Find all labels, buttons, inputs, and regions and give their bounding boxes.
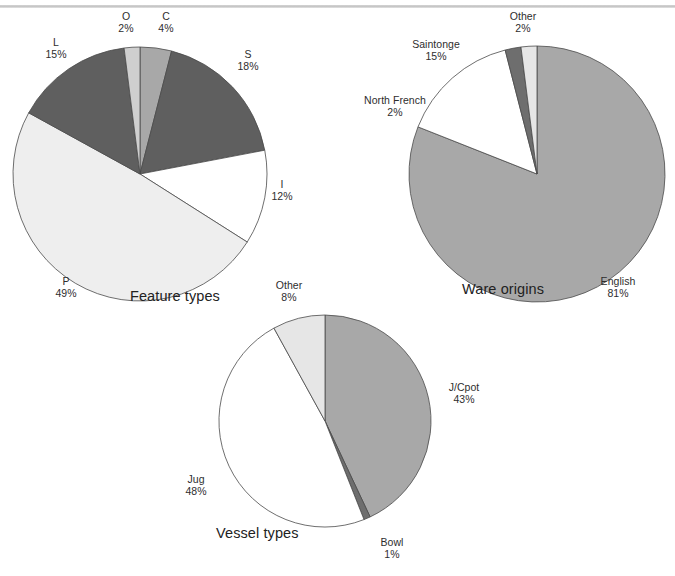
- slice-label-feature-S: S 18%: [232, 48, 264, 72]
- vessel-types-pie-svg: [200, 300, 480, 560]
- slice-label-feature-S-pct: 18%: [232, 60, 264, 72]
- slice-label-ware-north-french: North French 2%: [352, 94, 438, 118]
- slice-label-feature-O: O 2%: [112, 10, 140, 34]
- slice-label-ware-saintonge-name: Saintonge: [412, 38, 460, 50]
- slice-label-feature-I-pct: 12%: [266, 190, 298, 202]
- slice-label-vessel-jug-pct: 48%: [176, 485, 216, 497]
- slice-label-feature-I: I 12%: [266, 178, 298, 202]
- caption-ware-origins: Ware origins: [462, 281, 544, 297]
- slice-label-ware-english-pct: 81%: [589, 287, 647, 299]
- figure-page: Feature types O 2% C 4% L 15% S 18% I 12…: [0, 0, 675, 576]
- slice-label-vessel-jug-name: Jug: [187, 473, 204, 485]
- slice-label-feature-I-name: I: [281, 178, 284, 190]
- slice-label-feature-C: C 4%: [152, 10, 180, 34]
- caption-vessel-types: Vessel types: [216, 525, 299, 541]
- slice-label-vessel-jcpot: J/Cpot 43%: [440, 381, 488, 405]
- slice-label-ware-english-name: English: [601, 275, 636, 287]
- slice-label-feature-O-name: O: [122, 10, 130, 22]
- slice-label-ware-saintonge-pct: 15%: [400, 50, 472, 62]
- slice-label-feature-S-name: S: [244, 48, 251, 60]
- slice-label-vessel-other: Other 8%: [262, 279, 316, 303]
- slice-label-vessel-jug: Jug 48%: [176, 473, 216, 497]
- slice-label-feature-L: L 15%: [40, 36, 72, 60]
- slice-label-ware-other-pct: 2%: [496, 22, 550, 34]
- slice-label-feature-P-name: P: [62, 275, 69, 287]
- slice-label-vessel-jcpot-name: J/Cpot: [449, 381, 480, 393]
- slice-label-vessel-other-pct: 8%: [262, 291, 316, 303]
- slice-label-vessel-bowl-name: Bowl: [381, 536, 404, 548]
- slice-label-feature-P-pct: 49%: [50, 287, 82, 299]
- slice-label-vessel-bowl-pct: 1%: [370, 548, 414, 560]
- slice-label-feature-L-pct: 15%: [40, 48, 72, 60]
- slice-label-ware-english: English 81%: [589, 275, 647, 299]
- slice-label-vessel-other-name: Other: [276, 279, 303, 291]
- pie-chart-vessel-types: [200, 300, 480, 560]
- slice-label-ware-saintonge: Saintonge 15%: [400, 38, 472, 62]
- slice-label-feature-C-pct: 4%: [152, 22, 180, 34]
- slice-label-ware-other-name: Other: [510, 10, 537, 22]
- slice-label-ware-north-french-pct: 2%: [352, 106, 438, 118]
- slice-label-ware-other: Other 2%: [496, 10, 550, 34]
- slice-label-ware-north-french-name: North French: [364, 94, 426, 106]
- slice-label-vessel-jcpot-pct: 43%: [440, 393, 488, 405]
- slice-label-feature-P: P 49%: [50, 275, 82, 299]
- slice-label-feature-L-name: L: [53, 36, 59, 48]
- slice-label-vessel-bowl: Bowl 1%: [370, 536, 414, 560]
- slice-label-feature-O-pct: 2%: [112, 22, 140, 34]
- slice-label-feature-C-name: C: [162, 10, 170, 22]
